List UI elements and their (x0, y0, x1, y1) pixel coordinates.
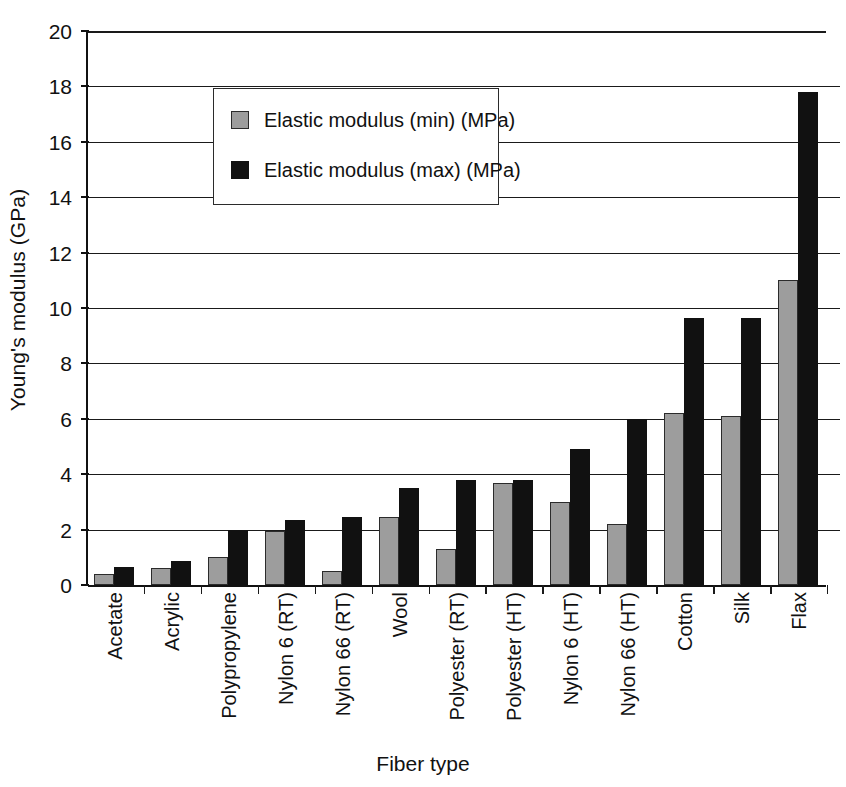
gridline (88, 585, 826, 587)
x-axis-category-label-text: Polyester (HT) (504, 592, 524, 721)
bar-min (265, 531, 285, 585)
bar-max (570, 449, 590, 585)
x-axis-category-labels: AcetateAcrylicPolypropyleneNylon 6 (RT)N… (86, 592, 826, 742)
bar-min (151, 568, 171, 585)
legend-item-max: Elastic modulus (max) (MPa) (231, 160, 521, 180)
x-axis-category-label-text: Polyester (RT) (447, 592, 467, 721)
bar-min (778, 280, 798, 585)
bar-max (627, 419, 647, 585)
chart-page: Young's modulus (GPa) 02468101214161820 … (0, 0, 846, 787)
legend-label-min: Elastic modulus (min) (MPa) (264, 110, 515, 130)
x-axis-category-label-text: Acrylic (162, 592, 182, 651)
chart-legend: Elastic modulus (min) (MPa) Elastic modu… (213, 88, 499, 205)
bar-max (171, 561, 191, 585)
y-axis-tick-label: 6 (26, 408, 72, 429)
legend-label-max: Elastic modulus (max) (MPa) (264, 160, 521, 180)
x-axis-category-label: Silk (732, 592, 764, 742)
bar-min (208, 557, 228, 585)
bar-max (285, 520, 305, 585)
x-axis-category-label-text: Cotton (675, 592, 695, 651)
y-axis-tick-label: 4 (26, 464, 72, 485)
x-axis-tick-mark (827, 585, 829, 594)
x-axis-category-label: Flax (789, 592, 827, 742)
bar-group (714, 31, 771, 585)
legend-item-min: Elastic modulus (min) (MPa) (231, 110, 515, 130)
x-axis-category-label-text: Flax (789, 592, 809, 630)
bar-min (436, 549, 456, 585)
bar-group (657, 31, 714, 585)
y-axis-tick-label: 10 (26, 298, 72, 319)
bar-min (607, 524, 627, 585)
x-axis-category-label-text: Acetate (105, 592, 125, 660)
y-axis-tick-mark-right (826, 253, 840, 254)
y-axis-tick-mark-right (826, 474, 840, 475)
y-axis-tick-label: 18 (26, 76, 72, 97)
bar-max (228, 530, 248, 585)
bar-group (543, 31, 600, 585)
x-axis-category-label: Acrylic (162, 592, 221, 742)
bar-group (771, 31, 828, 585)
x-axis-category-label-text: Nylon 6 (HT) (561, 592, 581, 705)
x-axis-category-label-text: Nylon 66 (RT) (333, 592, 353, 716)
x-axis-title-text: Fiber type (376, 752, 469, 775)
bar-max (342, 517, 362, 585)
y-axis-tick-mark-right (826, 419, 840, 420)
x-axis-category-label: Wool (390, 592, 435, 742)
y-axis-tick-mark-right (826, 86, 840, 87)
y-axis-tick-label: 20 (26, 21, 72, 42)
bar-min (550, 502, 570, 585)
x-axis-category-label-text: Wool (390, 592, 410, 637)
bar-max (741, 318, 761, 585)
y-axis-tick-label: 8 (26, 353, 72, 374)
bar-min (493, 483, 513, 585)
bar-max (513, 480, 533, 585)
x-axis-category-label-text: Silk (732, 592, 752, 624)
x-axis-category-label-text: Polypropylene (219, 592, 239, 719)
y-axis-tick-labels: 02468101214161820 (20, 0, 72, 600)
bar-max (798, 92, 818, 585)
y-axis-tick-label: 12 (26, 242, 72, 263)
y-axis-tick-mark-right (826, 308, 840, 309)
bar-group (600, 31, 657, 585)
y-axis-tick-mark-right (826, 363, 840, 364)
bar-min (721, 416, 741, 585)
y-axis-tick-mark-right (826, 142, 840, 143)
bar-group (88, 31, 145, 585)
bar-max (114, 567, 134, 585)
y-axis-tick-label: 16 (26, 131, 72, 152)
bar-min (94, 574, 114, 585)
bar-max (684, 318, 704, 585)
bar-max (456, 480, 476, 585)
x-axis-category-label: Cotton (675, 592, 734, 742)
x-axis-category-label-text: Nylon 66 (HT) (618, 592, 638, 716)
y-axis-tick-mark-right (826, 197, 840, 198)
bar-min (379, 517, 399, 585)
y-axis-tick-mark-right (826, 530, 840, 531)
legend-swatch-max-icon (231, 161, 249, 179)
legend-swatch-min-icon (231, 111, 249, 129)
bar-min (322, 571, 342, 585)
bar-min (664, 413, 684, 585)
y-axis-tick-label: 0 (26, 575, 72, 596)
x-axis-category-label-text: Nylon 6 (RT) (276, 592, 296, 705)
bar-group (145, 31, 202, 585)
bar-max (399, 488, 419, 585)
x-axis-title: Fiber type (0, 752, 846, 776)
y-axis-tick-label: 2 (26, 519, 72, 540)
y-axis-tick-label: 14 (26, 187, 72, 208)
